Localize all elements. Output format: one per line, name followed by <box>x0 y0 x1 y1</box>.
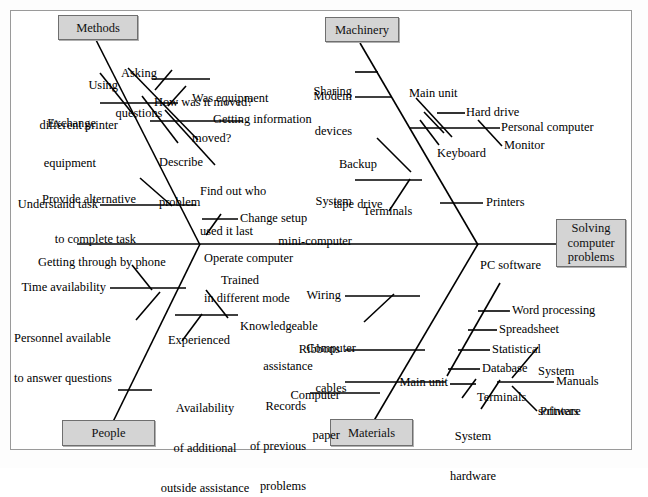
records-line2: of previous <box>228 440 306 453</box>
category-box-materials[interactable]: Materials <box>330 419 413 446</box>
effect-label-line3: problems <box>568 250 615 265</box>
cause-label-getting-through-by-phone: Getting through by phone <box>38 256 188 269</box>
personnel-available-line1: Personnel available <box>14 332 140 345</box>
cause-label-hard-drive: Hard drive <box>466 106 536 119</box>
cause-label-system-software: System software <box>538 338 604 445</box>
cause-label-trained: Trained <box>212 274 268 287</box>
cause-label-wiring: Wiring <box>285 289 341 302</box>
cause-label-main-unit-machinery: Main unit <box>409 87 477 100</box>
cause-label-understand-task: Understand task <box>14 198 98 211</box>
cause-label-word-processing: Word processing <box>512 304 622 317</box>
cause-label-ribbons: Ribbons <box>280 343 340 356</box>
effect-label-line2: computer <box>567 236 614 251</box>
cause-label-monitor: Monitor <box>504 139 560 152</box>
system-mini-line2: mini-computer <box>272 235 352 248</box>
cause-label-records-of-previous-problems: Records of previous problems <box>228 373 306 497</box>
provide-alternative-line2: to complete task <box>14 233 136 246</box>
cause-label-experienced: Experienced <box>168 334 248 347</box>
asking-questions-line1: Asking <box>108 67 170 80</box>
effect-box-solving-computer-problems[interactable]: Solving computer problems <box>556 219 626 267</box>
cause-label-personnel-available: Personnel available to answer questions <box>14 305 140 412</box>
category-box-people[interactable]: People <box>62 420 155 446</box>
records-line3: problems <box>228 480 306 493</box>
category-label-people: People <box>91 426 125 440</box>
system-mini-line1: System <box>272 195 352 208</box>
system-hardware-line1: System <box>437 430 509 443</box>
exchange-equipment-line1: Exchange <box>18 117 96 130</box>
cause-label-time-availability: Time availability <box>14 281 106 294</box>
category-label-methods: Methods <box>76 21 120 35</box>
personnel-available-line2: to answer questions <box>14 372 140 385</box>
category-label-machinery: Machinery <box>335 23 389 37</box>
category-box-machinery[interactable]: Machinery <box>325 17 399 42</box>
system-hardware-line2: hardware <box>437 470 509 483</box>
cause-label-printers-materials: Printers <box>540 405 600 418</box>
cause-label-terminals-machinery: Terminals <box>363 205 425 218</box>
cause-label-printers-machinery: Printers <box>486 196 544 209</box>
effect-label-line1: Solving <box>572 221 611 236</box>
category-label-materials: Materials <box>348 426 395 440</box>
cause-label-pc-software: PC software <box>480 259 558 272</box>
cause-label-how-was-it-moved: How was it moved? <box>154 96 289 109</box>
cause-label-modem: Modem <box>290 90 352 103</box>
cause-label-spreadsheet: Spreadsheet <box>499 323 579 336</box>
cause-label-keyboard: Keyboard <box>437 147 501 160</box>
cause-label-manuals: Manuals <box>556 375 620 388</box>
cause-label-system-mini-computer: System mini-computer <box>272 168 352 275</box>
cause-label-main-unit-materials: Main unit <box>380 376 448 389</box>
category-box-methods[interactable]: Methods <box>58 15 138 40</box>
cause-label-system-hardware: System hardware <box>437 403 509 497</box>
records-line1: Records <box>228 400 306 413</box>
cause-label-personal-computer: Personal computer <box>501 121 621 134</box>
